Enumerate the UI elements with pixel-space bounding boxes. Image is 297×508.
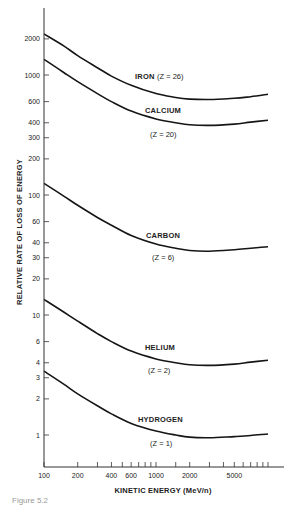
y-tick-label: 300 [28, 134, 40, 141]
x-tick-label: 200 [72, 472, 84, 479]
x-tick-label: 5000 [226, 472, 242, 479]
y-tick-label: 20 [32, 275, 40, 282]
helium-label: HELIUM [145, 343, 175, 352]
y-axis-title: RELATIVE RATE OF LOSS OF ENERGY [15, 159, 24, 305]
y-tick-label: 2000 [24, 35, 40, 42]
y-tick-label: 10 [32, 312, 40, 319]
y-tick-label: 400 [28, 119, 40, 126]
figure-caption: Figure 5.2 [12, 496, 48, 505]
hydrogen-z-label: (Z = 1) [150, 439, 173, 448]
x-ticks: 100200400600100020005000 [38, 462, 268, 479]
y-tick-label: 1 [36, 432, 40, 439]
energy-loss-chart: 12346102030406010020030040060010002000 1… [0, 0, 297, 508]
y-tick-label: 4 [36, 359, 40, 366]
y-tick-label: 60 [32, 218, 40, 225]
x-tick-label: 600 [125, 472, 137, 479]
y-tick-label: 100 [28, 192, 40, 199]
carbon-curve [44, 183, 268, 251]
iron-z-label: (Z = 26) [157, 72, 184, 81]
hydrogen-label: HYDROGEN [138, 415, 183, 424]
y-ticks: 12346102030406010020030040060010002000 [24, 35, 49, 438]
x-tick-label: 100 [38, 472, 50, 479]
carbon-label: CARBON [146, 231, 180, 240]
iron-label: IRON [135, 72, 155, 81]
y-tick-label: 3 [36, 374, 40, 381]
hydrogen-curve [44, 371, 268, 438]
x-tick-label: 1000 [148, 472, 164, 479]
iron-curve [44, 34, 268, 100]
calcium-z-label: (Z = 20) [150, 130, 177, 139]
y-tick-label: 6 [36, 338, 40, 345]
y-tick-label: 2 [36, 395, 40, 402]
y-tick-label: 600 [28, 98, 40, 105]
x-axis-title: KINETIC ENERGY (MeV/n) [114, 486, 211, 495]
x-tick-label: 400 [106, 472, 118, 479]
y-tick-label: 40 [32, 239, 40, 246]
y-tick-label: 1000 [24, 72, 40, 79]
helium-curve [44, 299, 268, 365]
calcium-label: CALCIUM [145, 106, 181, 115]
helium-z-label: (Z = 2) [148, 366, 171, 375]
x-tick-label: 2000 [182, 472, 198, 479]
y-tick-label: 30 [32, 254, 40, 261]
calcium-curve [44, 59, 268, 125]
y-tick-label: 200 [28, 155, 40, 162]
carbon-z-label: (Z = 6) [152, 253, 175, 262]
